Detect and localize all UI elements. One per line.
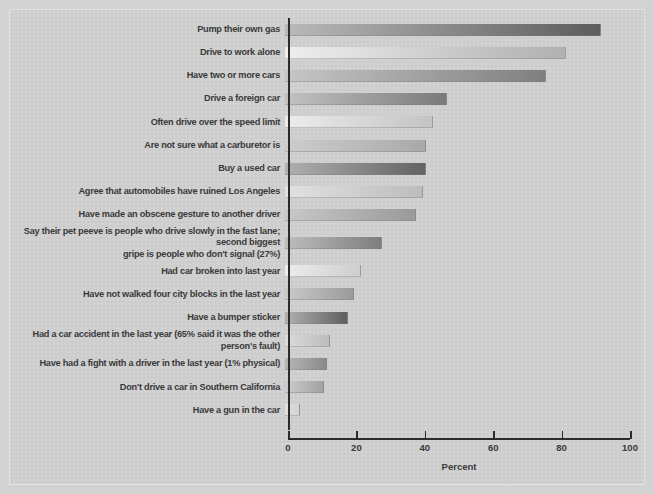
bar: [285, 47, 566, 59]
bar-category-label: Don't drive a car in Southern California: [0, 382, 285, 393]
bar-row: Have not walked four city blocks in the …: [0, 283, 654, 306]
bar-row: Don't drive a car in Southern California: [0, 376, 654, 399]
x-tick-label: 60: [488, 442, 499, 453]
x-tick: [493, 431, 495, 439]
bar-track: [285, 399, 654, 422]
bar: [285, 312, 348, 324]
bar: [285, 163, 426, 175]
bar: [285, 70, 546, 82]
bar: [285, 93, 447, 105]
x-axis-line: [288, 438, 630, 440]
x-tick-label: 80: [556, 442, 567, 453]
bar-track: [285, 18, 654, 41]
bar: [285, 116, 433, 128]
bar-category-label: Say their pet peeve is people who drive …: [0, 226, 285, 260]
bar-category-label: Had a car accident in the last year (65%…: [0, 329, 285, 352]
bar-track: [285, 157, 654, 180]
bar-track: [285, 283, 654, 306]
x-axis-title: Percent: [288, 461, 630, 472]
x-tick: [425, 431, 427, 439]
bar-category-label: Drive to work alone: [0, 47, 285, 58]
bar-track: [285, 376, 654, 399]
bar-row: Agree that automobiles have ruined Los A…: [0, 180, 654, 203]
bar: [285, 237, 382, 249]
bar-category-label: Buy a used car: [0, 163, 285, 174]
bar: [285, 140, 426, 152]
bar-track: [285, 204, 654, 227]
bar-rows: Pump their own gasDrive to work aloneHav…: [0, 18, 654, 422]
bar-category-label: Have had a fight with a driver in the la…: [0, 358, 285, 369]
bar-row: Had a car accident in the last year (65%…: [0, 329, 654, 352]
bar: [285, 186, 423, 198]
x-tick-label: 20: [351, 442, 362, 453]
bar-track: [285, 111, 654, 134]
bar-row: Are not sure what a carburetor is: [0, 134, 654, 157]
y-axis-line: [288, 18, 290, 430]
bar-row: Have a bumper sticker: [0, 306, 654, 329]
bar: [285, 265, 361, 277]
plot-area: Pump their own gasDrive to work aloneHav…: [0, 0, 654, 494]
bar-track: [285, 227, 654, 260]
bar-track: [285, 134, 654, 157]
bar-row: Have made an obscene gesture to another …: [0, 204, 654, 227]
x-tick-label: 0: [285, 442, 290, 453]
bar-row: Drive to work alone: [0, 41, 654, 64]
bar-category-label: Have a gun in the car: [0, 405, 285, 416]
x-tick: [562, 431, 564, 439]
bar-category-label: Have two or more cars: [0, 70, 285, 81]
bar: [285, 381, 324, 393]
chart-figure: Pump their own gasDrive to work aloneHav…: [0, 0, 654, 494]
bar-row: Say their pet peeve is people who drive …: [0, 227, 654, 260]
x-tick: [356, 431, 358, 439]
bar-track: [285, 306, 654, 329]
bar-row: Drive a foreign car: [0, 88, 654, 111]
bar-track: [285, 180, 654, 203]
bar-row: Have two or more cars: [0, 64, 654, 87]
x-tick: [630, 431, 632, 439]
bar-category-label: Had car broken into last year: [0, 266, 285, 277]
bar: [285, 209, 416, 221]
bar-category-label: Agree that automobiles have ruined Los A…: [0, 186, 285, 197]
x-tick-label: 40: [420, 442, 431, 453]
x-tick-label: 100: [622, 442, 638, 453]
bar-category-label: Have not walked four city blocks in the …: [0, 289, 285, 300]
bar-row: Buy a used car: [0, 157, 654, 180]
bar-track: [285, 64, 654, 87]
bar-track: [285, 260, 654, 283]
x-tick: [288, 431, 290, 439]
bar-row: Had car broken into last year: [0, 260, 654, 283]
bar-track: [285, 352, 654, 375]
bar-category-label: Have a bumper sticker: [0, 312, 285, 323]
bar-track: [285, 88, 654, 111]
bar: [285, 288, 354, 300]
bar-category-label: Have made an obscene gesture to another …: [0, 209, 285, 220]
bar-row: Pump their own gas: [0, 18, 654, 41]
bar-row: Have had a fight with a driver in the la…: [0, 352, 654, 375]
bar-category-label: Pump their own gas: [0, 24, 285, 35]
bar: [285, 358, 327, 370]
bar: [285, 24, 601, 36]
bar-track: [285, 329, 654, 352]
bar-track: [285, 41, 654, 64]
bar-category-label: Are not sure what a carburetor is: [0, 140, 285, 151]
bar: [285, 335, 330, 347]
bar-row: Often drive over the speed limit: [0, 111, 654, 134]
bar-row: Have a gun in the car: [0, 399, 654, 422]
bar-category-label: Often drive over the speed limit: [0, 117, 285, 128]
bar-category-label: Drive a foreign car: [0, 93, 285, 104]
